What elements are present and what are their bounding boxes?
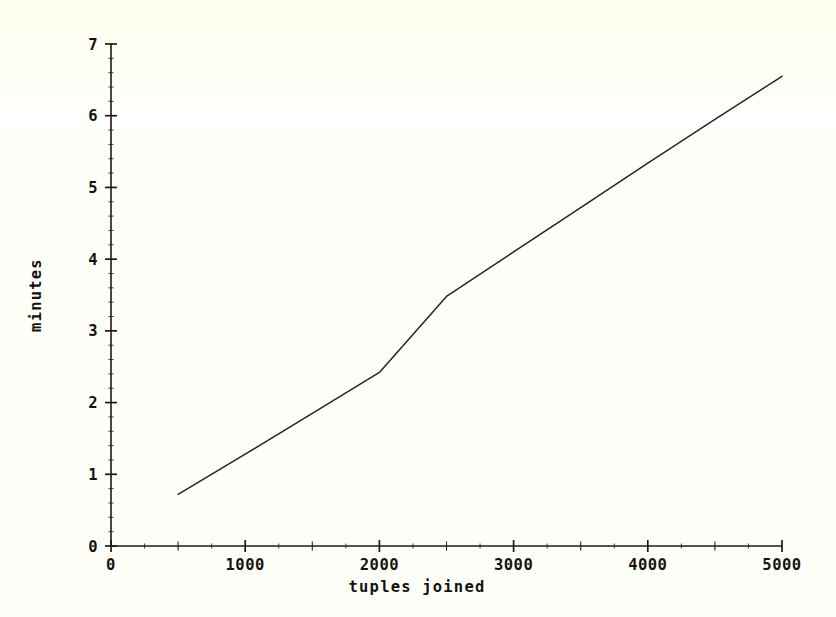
y-tick-label: 7	[88, 36, 98, 54]
chart-figure: 01234567 010002000300040005000 tuples jo…	[0, 0, 836, 617]
x-tick-label: 2000	[360, 556, 399, 574]
y-tick-label: 0	[88, 538, 98, 556]
x-axis-tick-labels: 010002000300040005000	[106, 556, 802, 574]
x-axis-title: tuples joined	[349, 578, 486, 596]
x-tick-label: 0	[106, 556, 116, 574]
y-axis-tick-labels: 01234567	[88, 36, 98, 556]
y-tick-label: 4	[88, 251, 98, 269]
y-axis-title: minutes	[27, 258, 45, 332]
y-tick-label: 6	[88, 107, 98, 125]
x-axis-ticks	[111, 540, 782, 552]
x-tick-label: 5000	[762, 556, 801, 574]
x-tick-label: 3000	[494, 556, 533, 574]
y-tick-label: 2	[88, 394, 98, 412]
x-tick-label: 4000	[628, 556, 667, 574]
y-tick-label: 3	[88, 322, 98, 340]
line-chart-plot: 01234567 010002000300040005000 tuples jo…	[0, 0, 836, 617]
y-tick-label: 5	[88, 179, 98, 197]
y-tick-label: 1	[88, 466, 98, 484]
data-series-line	[178, 76, 782, 494]
x-tick-label: 1000	[226, 556, 265, 574]
